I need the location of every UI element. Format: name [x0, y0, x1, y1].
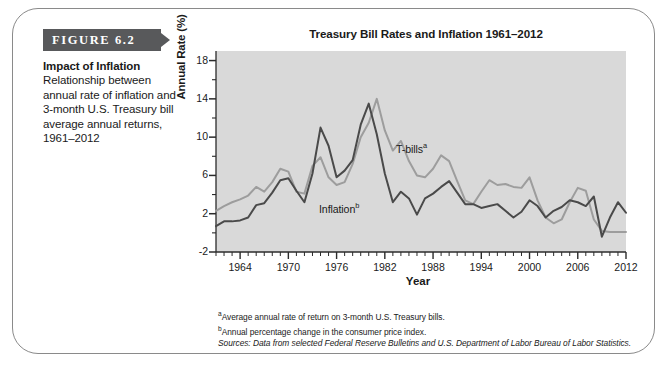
x-tick-label: 2000 [510, 261, 550, 273]
series-label-text: T-bills [396, 143, 423, 155]
y-tick-label: -2 [182, 245, 208, 257]
chart-svg [198, 45, 638, 275]
axes-group [209, 51, 626, 259]
series-label-superscript: b [355, 201, 359, 210]
series-label-superscript: a [423, 141, 427, 150]
series-label-inflation: Inflationb [319, 201, 359, 215]
chart-title: Treasury Bill Rates and Inflation 1961–2… [210, 27, 642, 40]
y-tick-label: 14 [182, 92, 208, 104]
caption-column: FIGURE 6.2 Impact of Inflation Relations… [43, 29, 183, 146]
series-group [216, 99, 626, 237]
figure-number-banner: FIGURE 6.2 [43, 29, 161, 51]
x-tick-label: 2012 [606, 261, 646, 273]
series-label-text: Inflation [319, 203, 355, 215]
x-tick-label: 1976 [317, 261, 357, 273]
series-label-tbills: T-billsa [396, 141, 427, 155]
x-tick-label: 2006 [558, 261, 598, 273]
caption-body: Relationship between annual rate of infl… [43, 73, 183, 146]
footnote-b-text: Annual percentage change in the consumer… [222, 327, 427, 337]
footnote-a-text: Average annual rate of return on 3-month… [222, 312, 445, 322]
sources-lead: Sources: [218, 338, 251, 348]
x-tick-label: 1970 [268, 261, 308, 273]
plot-area: Annual Rate (%) -226101418 1964197019761… [198, 45, 638, 255]
y-tick-label: 18 [182, 54, 208, 66]
figure-card: FIGURE 6.2 Impact of Inflation Relations… [12, 8, 655, 354]
banner-arrow-icon [161, 33, 170, 47]
y-tick-label: 10 [182, 130, 208, 142]
caption-title: Impact of Inflation [43, 59, 183, 73]
footnote-a: aAverage annual rate of return on 3-mont… [218, 308, 648, 323]
x-tick-label: 1994 [461, 261, 501, 273]
y-tick-label: 2 [182, 207, 208, 219]
x-tick-label: 1964 [220, 261, 260, 273]
figure-number-label: FIGURE 6.2 [52, 33, 135, 48]
footnote-sources: Sources: Data from selected Federal Rese… [218, 338, 648, 349]
sources-text: Data from selected Federal Reserve Bulle… [251, 338, 631, 348]
y-tick-label: 6 [182, 168, 208, 180]
x-tick-label: 1982 [365, 261, 405, 273]
footnote-b: bAnnual percentage change in the consume… [218, 323, 648, 338]
x-tick-label: 1988 [413, 261, 453, 273]
footnotes: aAverage annual rate of return on 3-mont… [218, 308, 648, 350]
x-axis-label: Year [198, 275, 638, 287]
